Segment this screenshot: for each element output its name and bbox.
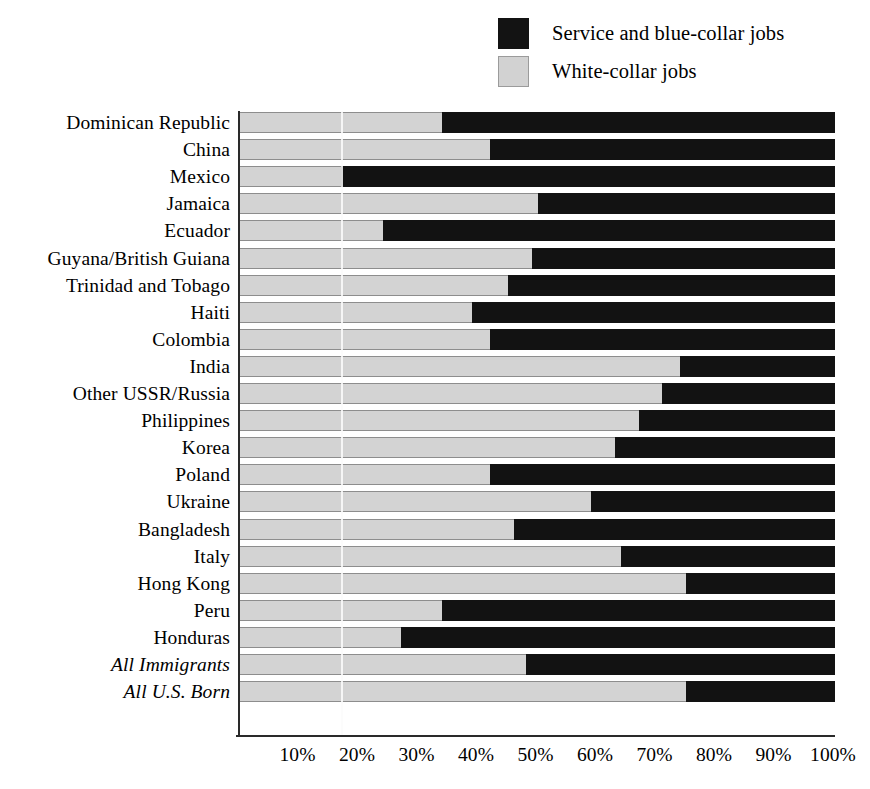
y-axis-label-other-ussr-russia: Other USSR/Russia [0, 383, 230, 404]
x-tick-label: 80% [696, 743, 732, 767]
x-tick-label: 10% [279, 743, 315, 767]
bar-row [240, 491, 835, 512]
bar-row [240, 546, 835, 567]
y-axis-label-haiti: Haiti [0, 302, 230, 323]
bar-segment-white-collar [240, 437, 615, 458]
legend-item-service-blue-collar: Service and blue-collar jobs [498, 14, 858, 52]
y-axis-label-ukraine: Ukraine [0, 491, 230, 512]
bar-segment-white-collar [240, 220, 383, 241]
x-tick-label: 60% [577, 743, 613, 767]
bar-segment-white-collar [240, 302, 472, 323]
bar-segment-white-collar [240, 410, 639, 431]
bar-segment-service-blue-collar [383, 220, 835, 241]
bar-segment-service-blue-collar [514, 519, 835, 540]
x-tick-label: 30% [398, 743, 434, 767]
bar-row [240, 248, 835, 269]
bar-segment-white-collar [240, 627, 401, 648]
bar-segment-service-blue-collar [680, 356, 835, 377]
y-axis-label-india: India [0, 356, 230, 377]
bar-row [240, 302, 835, 323]
bar-row [240, 139, 835, 160]
bar-segment-service-blue-collar [538, 193, 836, 214]
y-axis-label-ecuador: Ecuador [0, 220, 230, 241]
y-axis-label-bangladesh: Bangladesh [0, 519, 230, 540]
bar-segment-white-collar [240, 464, 490, 485]
y-axis-label-peru: Peru [0, 600, 230, 621]
plot-area [238, 111, 835, 735]
bar-row [240, 410, 835, 431]
x-tick-label: 40% [458, 743, 494, 767]
bar-segment-white-collar [240, 519, 514, 540]
y-axis-label-honduras: Honduras [0, 627, 230, 648]
stacked-bar-chart: Service and blue-collar jobs White-colla… [0, 0, 870, 789]
x-tick-label: 90% [755, 743, 791, 767]
bar-row [240, 329, 835, 350]
bar-segment-service-blue-collar [532, 248, 835, 269]
bar-segment-service-blue-collar [686, 681, 835, 702]
bar-segment-white-collar [240, 329, 490, 350]
bar-row [240, 600, 835, 621]
bar-segment-service-blue-collar [526, 654, 835, 675]
bar-row [240, 275, 835, 296]
y-axis-label-jamaica: Jamaica [0, 193, 230, 214]
bar-segment-service-blue-collar [508, 275, 835, 296]
dark-square-icon [498, 18, 529, 49]
bar-segment-white-collar [240, 248, 532, 269]
bar-row [240, 356, 835, 377]
bar-row [240, 573, 835, 594]
page-fold-artifact [341, 111, 343, 735]
y-axis-label-korea: Korea [0, 437, 230, 458]
bar-segment-white-collar [240, 654, 526, 675]
bar-segment-white-collar [240, 356, 680, 377]
bar-segment-service-blue-collar [490, 329, 835, 350]
y-axis-label-all-u-s-born: All U.S. Born [0, 681, 230, 702]
bar-segment-white-collar [240, 139, 490, 160]
legend-item-white-collar: White-collar jobs [498, 52, 858, 90]
bar-segment-white-collar [240, 573, 686, 594]
bar-segment-service-blue-collar [639, 410, 835, 431]
bar-segment-white-collar [240, 193, 538, 214]
x-axis-line [236, 735, 835, 737]
bar-segment-white-collar [240, 681, 686, 702]
bar-row [240, 627, 835, 648]
bar-row [240, 681, 835, 702]
y-axis-label-hong-kong: Hong Kong [0, 573, 230, 594]
bar-segment-service-blue-collar [490, 464, 835, 485]
bar-segment-service-blue-collar [686, 573, 835, 594]
bar-row [240, 654, 835, 675]
x-tick-label: 70% [636, 743, 672, 767]
x-tick-label: 20% [339, 743, 375, 767]
y-axis-label-trinidad-and-tobago: Trinidad and Tobago [0, 275, 230, 296]
bar-segment-white-collar [240, 166, 341, 187]
bar-segment-white-collar [240, 383, 662, 404]
bar-segment-white-collar [240, 491, 591, 512]
legend-item-label: White-collar jobs [552, 61, 697, 82]
bar-rows [240, 111, 835, 735]
bar-segment-service-blue-collar [615, 437, 835, 458]
bar-segment-service-blue-collar [621, 546, 835, 567]
bar-segment-service-blue-collar [591, 491, 835, 512]
light-square-icon [498, 56, 529, 87]
chart-legend: Service and blue-collar jobs White-colla… [498, 14, 858, 90]
y-axis-label-philippines: Philippines [0, 410, 230, 431]
bar-segment-service-blue-collar [662, 383, 835, 404]
bar-row [240, 193, 835, 214]
bar-segment-service-blue-collar [401, 627, 835, 648]
x-tick-label: 50% [517, 743, 553, 767]
y-axis-label-colombia: Colombia [0, 329, 230, 350]
x-tick-label: 100% [810, 743, 856, 767]
y-axis-label-china: China [0, 139, 230, 160]
y-axis-label-italy: Italy [0, 546, 230, 567]
bar-row [240, 112, 835, 133]
y-axis-label-dominican-republic: Dominican Republic [0, 112, 230, 133]
bar-row [240, 437, 835, 458]
bar-row [240, 383, 835, 404]
bar-row [240, 519, 835, 540]
y-axis-label-all-immigrants: All Immigrants [0, 654, 230, 675]
x-axis-tick-labels: 10%20%30%40%50%60%70%80%90%100% [238, 743, 833, 773]
bar-segment-service-blue-collar [442, 112, 835, 133]
bar-row [240, 166, 835, 187]
bar-segment-service-blue-collar [442, 600, 835, 621]
bar-segment-service-blue-collar [490, 139, 835, 160]
y-axis-category-labels: Dominican RepublicChinaMexicoJamaicaEcua… [0, 111, 230, 735]
